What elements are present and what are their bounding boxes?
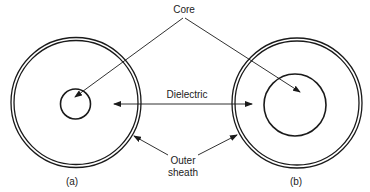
core-arrow-a bbox=[75, 18, 183, 97]
sheath-arrow-b bbox=[198, 135, 237, 155]
core-a bbox=[61, 89, 91, 119]
core-label: Core bbox=[173, 4, 195, 16]
core-arrow-b bbox=[185, 18, 300, 92]
dielectric-label: Dielectric bbox=[166, 89, 207, 101]
core-b bbox=[264, 74, 326, 136]
cable-b bbox=[232, 38, 362, 168]
outer-sheath-label-line1: Outer bbox=[170, 155, 195, 167]
caption-b: (b) bbox=[290, 176, 302, 188]
outer-sheath-a-inner bbox=[14, 41, 138, 165]
outer-sheath-b-outer bbox=[232, 38, 362, 168]
outer-sheath-b-inner bbox=[235, 41, 359, 165]
outer-sheath-label-line2: sheath bbox=[168, 167, 198, 179]
sheath-arrow-a bbox=[134, 136, 168, 155]
cable-a bbox=[11, 38, 141, 168]
caption-a: (a) bbox=[66, 176, 78, 188]
outer-sheath-a-outer bbox=[11, 38, 141, 168]
coax-diagram: Core Dielectric Outer sheath (a) (b) bbox=[0, 0, 370, 192]
